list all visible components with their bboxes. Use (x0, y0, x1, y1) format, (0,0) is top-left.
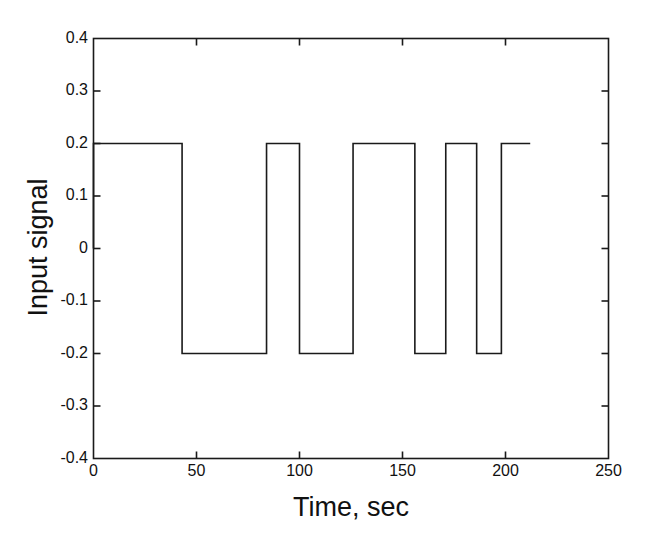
y-axis-tick-label: -0.3 (40, 397, 88, 413)
x-axis-tick-labels: 050100150200250 (0, 463, 649, 493)
chart-figure: -0.4-0.3-0.2-0.100.10.20.30.4 0501001502… (0, 0, 649, 547)
y-axis-tick-label: 0.3 (40, 82, 88, 98)
x-axis-tick-label: 0 (64, 463, 124, 479)
x-axis-title: Time, sec (93, 492, 609, 523)
x-axis-tick-label: 100 (270, 463, 330, 479)
y-axis-tick-label: 0.4 (40, 30, 88, 46)
x-axis-tick-label: 50 (167, 463, 227, 479)
x-axis-tick-label: 200 (476, 463, 536, 479)
y-axis-title: Input signal (23, 98, 54, 398)
x-axis-tick-label: 150 (373, 463, 433, 479)
x-axis-tick-label: 250 (579, 463, 639, 479)
